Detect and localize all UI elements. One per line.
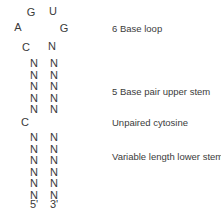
annotation-upper-stem: 5 Base pair upper stem bbox=[112, 86, 210, 97]
five-prime-terminus-label: 5' bbox=[28, 199, 40, 210]
upper-stem-right-base-3: N bbox=[48, 81, 60, 92]
loop-base-3: A bbox=[12, 22, 24, 33]
lower-stem-right-base-4: N bbox=[48, 167, 60, 178]
upper-stem-left-base-5: N bbox=[28, 104, 40, 115]
upper-stem-left-base-3: N bbox=[28, 81, 40, 92]
loop-base-1: G bbox=[25, 7, 37, 18]
upper-stem-right-base-1: N bbox=[48, 58, 60, 69]
rna-stem-loop-diagram: GUAGCNNNNNNNNNNNCNNNNNNNNNNNN5'3'6 Base … bbox=[0, 0, 221, 211]
annotation-lower-stem: Variable length lower stem bbox=[112, 151, 221, 162]
annotation-unpaired-cytosine: Unpaired cytosine bbox=[112, 117, 188, 128]
lower-stem-left-base-4: N bbox=[28, 167, 40, 178]
lower-stem-left-base-2: N bbox=[28, 144, 40, 155]
annotation-loop: 6 Base loop bbox=[112, 23, 162, 34]
upper-stem-right-base-2: N bbox=[48, 70, 60, 81]
upper-stem-left-base-1: N bbox=[28, 58, 40, 69]
upper-stem-left-base-4: N bbox=[28, 93, 40, 104]
upper-stem-left-base-2: N bbox=[28, 70, 40, 81]
loop-base-6: N bbox=[46, 41, 58, 52]
unpaired-cytosine-base: C bbox=[19, 117, 31, 128]
lower-stem-left-base-5: N bbox=[28, 178, 40, 189]
loop-base-5: C bbox=[20, 42, 32, 53]
lower-stem-right-base-1: N bbox=[48, 132, 60, 143]
loop-base-2: U bbox=[47, 6, 59, 17]
upper-stem-right-base-4: N bbox=[48, 93, 60, 104]
lower-stem-right-base-3: N bbox=[48, 155, 60, 166]
three-prime-terminus-label: 3' bbox=[48, 199, 60, 210]
lower-stem-right-base-2: N bbox=[48, 144, 60, 155]
loop-base-4: G bbox=[58, 23, 70, 34]
lower-stem-right-base-5: N bbox=[48, 178, 60, 189]
upper-stem-right-base-5: N bbox=[48, 104, 60, 115]
lower-stem-left-base-1: N bbox=[28, 132, 40, 143]
lower-stem-left-base-3: N bbox=[28, 155, 40, 166]
